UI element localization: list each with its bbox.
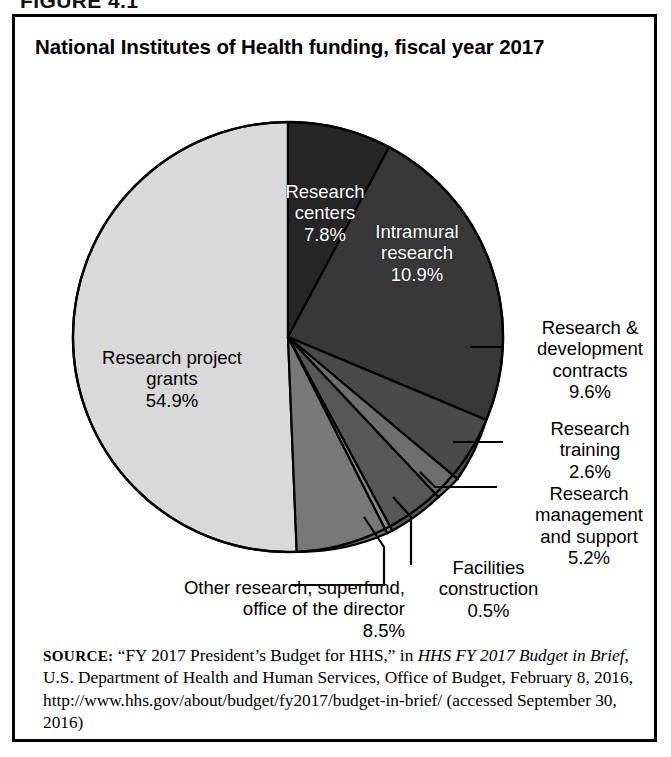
source-italic-title: HHS FY 2017 Budget in Brief	[418, 646, 625, 665]
pie-label-other-research: Other research, superfund, office of the…	[133, 577, 405, 641]
pie-chart: Research centers 7.8% Intramural researc…	[15, 17, 660, 637]
source-note: SOURCE: “FY 2017 President’s Budget for …	[43, 645, 647, 735]
source-label: SOURCE:	[43, 647, 113, 664]
pie-label-rd-contracts: Research & development contracts 9.6%	[515, 317, 665, 403]
pie-label-intramural-research: Intramural research 10.9%	[355, 221, 479, 285]
pie-slice-research-project-grants[interactable]	[73, 122, 297, 552]
pie-label-research-training: Research training 2.6%	[515, 418, 665, 482]
figure-box: National Institutes of Health funding, f…	[12, 14, 657, 742]
figure-number-label: FIGURE 4.1	[20, 0, 138, 13]
pie-label-research-project-grants: Research project grants 54.9%	[77, 347, 267, 411]
pie-label-research-management: Research management and support 5.2%	[509, 483, 669, 569]
pie-label-facilities-construction: Facilities construction 0.5%	[426, 557, 551, 621]
source-text-part1: “FY 2017 President’s Budget for HHS,” in	[113, 646, 417, 665]
